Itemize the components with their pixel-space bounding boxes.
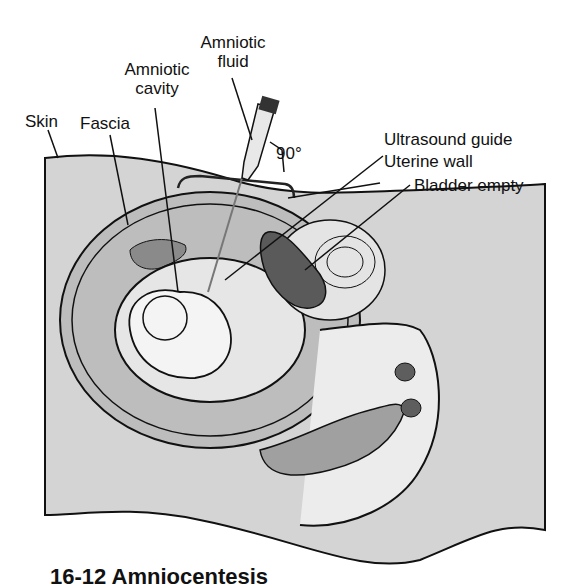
label-skin: Skin xyxy=(25,112,58,131)
figure-caption: 16-12 Amniocentesis xyxy=(50,564,268,588)
label-amniotic-fluid-line1: Amniotic xyxy=(188,33,278,52)
label-amniotic-cavity-line2: cavity xyxy=(112,79,202,98)
label-amniotic-fluid-line2: fluid xyxy=(188,52,278,71)
label-ultrasound-guide: Ultrasound guide xyxy=(384,130,513,149)
label-uterine-wall: Uterine wall xyxy=(384,152,473,171)
label-fascia: Fascia xyxy=(80,114,130,133)
label-angle: 90° xyxy=(276,144,302,163)
label-amniotic-fluid: Amniotic fluid xyxy=(188,33,278,71)
label-bladder-empty: Bladder empty xyxy=(414,176,524,195)
